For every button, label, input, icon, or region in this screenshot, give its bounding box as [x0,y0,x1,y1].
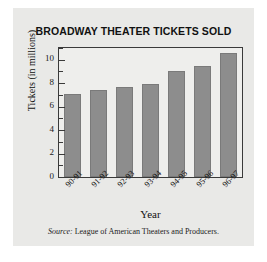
plot-frame [58,47,243,178]
y-tick-label: 0 [50,172,55,181]
y-tick-major [59,60,65,61]
bar-95-96 [190,66,216,177]
y-tick-label: 6 [50,101,55,110]
y-tick-minor [59,95,63,96]
y-tick-major [59,154,65,155]
y-tick-label: 2 [50,148,55,157]
x-axis-title: Year [58,208,243,220]
x-axis-tick-labels: 90-9191-9292-9393-9494-9595-9696-97 [58,178,243,208]
chart-title: BROADWAY THEATER TICKETS SOLD [13,25,254,37]
y-tick-major [59,107,65,108]
bar-93-94 [137,84,163,177]
y-tick-label: 10 [45,54,54,63]
y-tick-minor [59,165,63,166]
y-tick-minor [59,142,63,143]
bar-rect [116,87,133,177]
y-tick-minor [59,71,63,72]
bar-rect [64,94,81,177]
bar-91-92 [85,90,111,177]
y-tick-label: 8 [50,78,55,87]
source-note: Source: League of American Theaters and … [13,227,254,236]
bar-rect [90,90,107,177]
y-axis-tick-labels: 0246810 [27,47,54,178]
chart-figure-panel: BROADWAY THEATER TICKETS SOLD Tickets (i… [13,8,254,246]
plot-area [59,48,242,177]
bar-92-93 [111,87,137,177]
source-label: Source: [48,227,73,236]
y-tick-major [59,130,65,131]
y-tick-major [59,83,65,84]
bar-94-95 [164,71,190,177]
bar-rect [194,66,211,177]
bar-rect [168,71,185,177]
bar-96-97 [216,53,242,177]
y-tick-minor [59,118,63,119]
bar-rect [142,84,159,177]
source-text: League of American Theaters and Producer… [75,227,219,236]
y-tick-minor [59,48,63,49]
y-tick-label: 4 [50,125,55,134]
bar-rect [220,53,237,177]
